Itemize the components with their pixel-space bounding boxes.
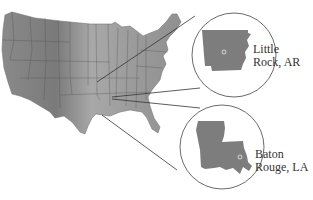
map-figure: Little Rock, AR Baton Rouge, LA [0, 0, 313, 200]
little-rock-label-line1: Little [253, 42, 279, 56]
little-rock-label-line2: Rock, AR [253, 55, 300, 69]
baton-rouge-label: Baton Rouge, LA [255, 148, 308, 174]
little-rock-label: Little Rock, AR [253, 43, 300, 69]
baton-rouge-label-line1: Baton [255, 147, 284, 161]
baton-rouge-label-line2: Rouge, LA [255, 160, 308, 174]
